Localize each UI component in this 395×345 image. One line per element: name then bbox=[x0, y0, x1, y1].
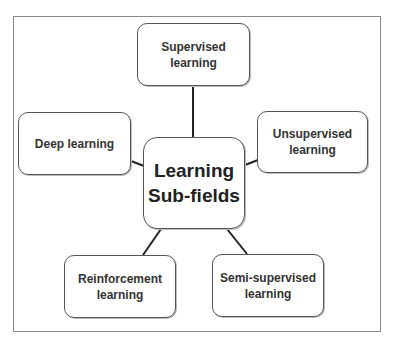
node-unsupervised-learning: Unsupervised learning bbox=[257, 111, 368, 173]
node-label: Deep learning bbox=[35, 136, 114, 152]
center-label: Learning Sub-fields bbox=[148, 158, 240, 208]
node-deep-learning: Deep learning bbox=[18, 112, 131, 175]
node-label: Reinforcement learning bbox=[78, 271, 162, 303]
node-semi-supervised-learning: Semi-supervised learning bbox=[212, 254, 324, 317]
edge-semi-supervised bbox=[227, 229, 247, 254]
node-label: Supervised learning bbox=[161, 39, 226, 71]
node-label: Unsupervised learning bbox=[273, 126, 352, 158]
node-center-learning-sub-fields: Learning Sub-fields bbox=[143, 137, 245, 229]
node-supervised-learning: Supervised learning bbox=[137, 23, 250, 86]
node-label: Semi-supervised learning bbox=[220, 270, 316, 302]
node-reinforcement-learning: Reinforcement learning bbox=[64, 255, 176, 318]
edge-reinforcement bbox=[143, 229, 161, 255]
